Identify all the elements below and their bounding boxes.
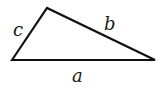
triangle bbox=[12, 8, 155, 60]
side-label-a: a bbox=[72, 65, 83, 86]
side-label-b: b bbox=[104, 13, 116, 34]
side-label-c: c bbox=[13, 19, 23, 40]
triangle-diagram: a b c bbox=[0, 0, 158, 90]
